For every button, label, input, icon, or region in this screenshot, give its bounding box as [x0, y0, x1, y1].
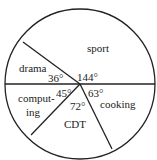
label-computing-line1: comput- [18, 92, 55, 104]
label-cdt: CDT [64, 118, 86, 130]
angle-drama: 36° [48, 72, 63, 84]
pie-chart: sport drama 36° 144° 45° 63° 72° comput-… [0, 0, 157, 160]
label-computing-line2: ing [26, 106, 41, 118]
label-sport: sport [87, 42, 109, 54]
label-drama: drama [19, 62, 47, 74]
angle-computing: 45° [56, 87, 71, 99]
label-cooking: cooking [100, 98, 136, 110]
angle-cdt: 72° [70, 100, 85, 112]
angle-sport: 144° [77, 71, 98, 83]
